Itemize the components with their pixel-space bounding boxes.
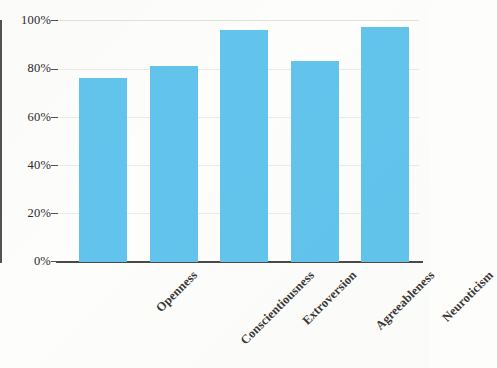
x-tick-label-conscientiousness: Conscientiousness: [238, 268, 318, 348]
x-tick-label-agreeableness: Agreeableness: [373, 268, 438, 333]
x-tick-label-neuroticism: Neuroticism: [439, 268, 496, 325]
x-tick-label-openness: Openness: [153, 268, 201, 316]
